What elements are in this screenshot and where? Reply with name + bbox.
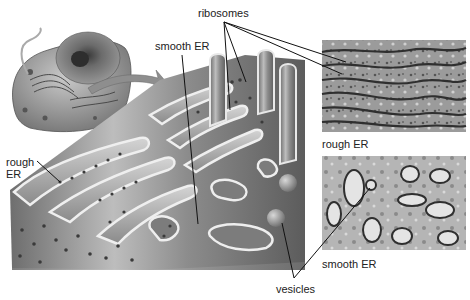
rough-er-micrograph-caption: rough ER (322, 138, 368, 150)
smooth-er-micrograph (322, 156, 466, 250)
ribosomes-label: ribosomes (198, 7, 249, 19)
rough-er-label-line1: rough (6, 156, 34, 168)
smooth-er-label: smooth ER (155, 40, 209, 52)
vesicle (279, 174, 297, 192)
rough-er-micrograph (322, 40, 466, 132)
vesicles-label: vesicles (276, 283, 315, 295)
rough-er-label-line2: ER (6, 168, 21, 180)
smooth-er-micrograph-caption: smooth ER (322, 258, 376, 270)
diagram-canvas (0, 0, 470, 300)
